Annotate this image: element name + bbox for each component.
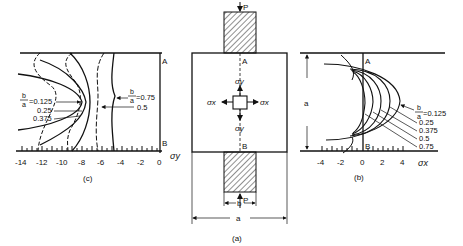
tick--2: -2 (337, 158, 345, 167)
label-0125: =0.125 (29, 97, 52, 106)
ratio-num: b (417, 104, 421, 111)
point-a: A (242, 57, 248, 66)
curve-075 (112, 53, 115, 151)
sigma-y-top: σy (235, 77, 245, 86)
stress-element (233, 96, 247, 109)
label-0125: =0.125 (423, 109, 446, 118)
dimension-a: a (236, 214, 241, 223)
point-a: A (365, 57, 371, 66)
tick-0: 0 (360, 158, 365, 167)
tick-2: 2 (380, 158, 385, 167)
bottom-loading-block (224, 152, 256, 192)
ratio-den-right: a (130, 97, 134, 104)
point-a-label: A (162, 57, 168, 66)
tick--12: -12 (36, 158, 48, 167)
tick--6: -6 (97, 158, 105, 167)
ratio-den: a (22, 101, 26, 108)
caption-a: (a) (232, 234, 242, 243)
panel-a-specimen: P P A B σy σy σx σx b a (a) (192, 2, 287, 243)
sigma-x-left: σx (207, 98, 217, 107)
axis-ticks (22, 146, 157, 151)
label-05: 0.5 (137, 103, 147, 112)
panel-c-sigma-y-plot: A B σy b a =0.125 0.25 0.375 b a =0.75 0… (15, 53, 180, 183)
ratio-num: b (22, 92, 26, 99)
dimension-a: a (304, 99, 309, 108)
dimension-b: b (237, 199, 242, 208)
load-p-bottom: P (243, 196, 248, 205)
label-0375: 0.375 (33, 114, 52, 123)
tick-labels: -4 -2 0 2 4 (317, 158, 405, 167)
sigma-x-axis-label: σx (418, 158, 428, 168)
tick-labels: -14 -12 -10 -8 -6 -4 -2 0 (15, 158, 162, 167)
label-075: =0.75 (136, 93, 155, 102)
point-b-label: B (162, 139, 167, 148)
point-b: B (242, 142, 247, 151)
curve-05-dashed (96, 53, 104, 151)
sigma-x-right: σx (260, 98, 270, 107)
edge-curve-top (341, 55, 354, 80)
tick--2: -2 (137, 158, 145, 167)
load-p-top: P (243, 3, 248, 12)
tick--8: -8 (78, 158, 86, 167)
label-075: 0.75 (419, 142, 434, 151)
tick-4: 4 (400, 158, 405, 167)
caption-c: (c) (83, 174, 93, 183)
tick-0: 0 (157, 158, 162, 167)
top-loading-block (224, 12, 256, 53)
ratio-num-right: b (130, 88, 134, 95)
stress-distribution-figure: A B σy b a =0.125 0.25 0.375 b a =0.75 0… (0, 0, 463, 246)
sigma-y-axis-label: σy (170, 151, 180, 161)
tick--10: -10 (56, 158, 68, 167)
tick--14: -14 (15, 158, 27, 167)
caption-b: (b) (354, 173, 364, 182)
tick--4: -4 (117, 158, 125, 167)
panel-b-sigma-x-plot: a A B b a =0.125 0.25 0.375 (300, 53, 446, 182)
sigma-y-bottom: σy (235, 124, 245, 133)
point-b: B (365, 142, 370, 151)
tick--4: -4 (317, 158, 325, 167)
